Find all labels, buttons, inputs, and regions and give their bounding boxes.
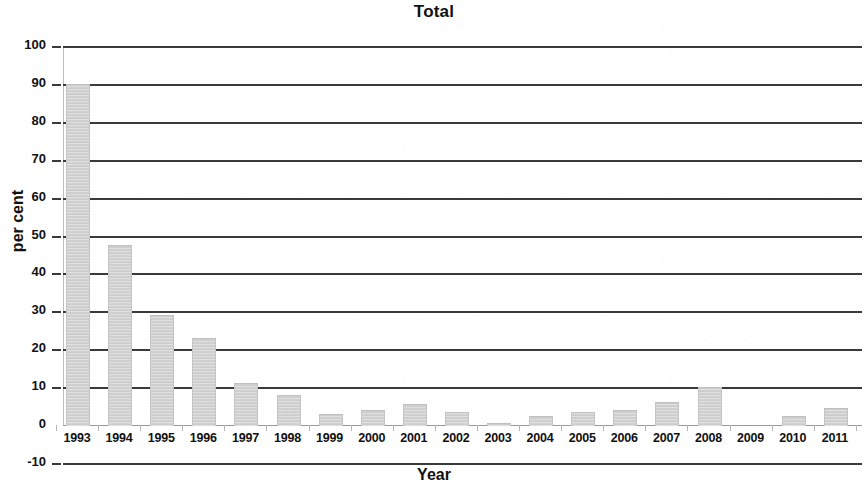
x-tick-mark <box>56 425 57 431</box>
x-tick-label-2000: 2000 <box>349 431 395 445</box>
bar-1997 <box>234 383 258 426</box>
bar-1993 <box>66 84 90 426</box>
y-tick-label: 100 <box>6 37 46 52</box>
y-tick-label: 20 <box>6 340 46 355</box>
bar-2008 <box>698 387 722 426</box>
y-tick-label: 0 <box>6 416 46 431</box>
bar-2001 <box>403 404 427 426</box>
y-axis-title: per cent <box>9 161 27 281</box>
gridline <box>63 160 862 162</box>
y-tick-label: 30 <box>6 302 46 317</box>
y-tick-mark <box>52 46 61 48</box>
x-tick-label-2005: 2005 <box>559 431 605 445</box>
y-tick-mark <box>52 387 61 389</box>
bar-2002 <box>445 412 469 426</box>
y-tick-mark <box>52 122 61 124</box>
x-tick-label-2006: 2006 <box>601 431 647 445</box>
gridline <box>63 84 862 86</box>
y-tick-label: 10 <box>6 378 46 393</box>
x-tick-label-2007: 2007 <box>643 431 689 445</box>
x-tick-label-2003: 2003 <box>475 431 521 445</box>
x-tick-label-2008: 2008 <box>686 431 732 445</box>
x-tick-label-1999: 1999 <box>307 431 353 445</box>
x-tick-label-1994: 1994 <box>96 431 142 445</box>
bar-2006 <box>613 410 637 426</box>
bar-2007 <box>655 402 679 426</box>
x-tick-label-1995: 1995 <box>138 431 184 445</box>
bar-2005 <box>571 412 595 426</box>
bar-2003 <box>487 423 511 426</box>
bar-2011 <box>824 408 848 426</box>
y-tick-mark <box>52 311 61 313</box>
bar-1998 <box>277 395 301 426</box>
gridline <box>63 236 862 238</box>
y-tick-mark <box>52 236 61 238</box>
x-tick-label-1997: 1997 <box>222 431 268 445</box>
y-tick-label: 70 <box>6 151 46 166</box>
y-tick-label: 50 <box>6 227 46 242</box>
gridline <box>63 349 862 351</box>
x-tick-label-1996: 1996 <box>180 431 226 445</box>
gridline <box>63 387 862 389</box>
x-tick-label-2004: 2004 <box>517 431 563 445</box>
bar-chart: Total per cent 1009080706050403020100-10… <box>0 0 868 492</box>
y-tick-label: 60 <box>6 189 46 204</box>
y-tick-mark <box>52 198 61 200</box>
gridline <box>63 122 862 124</box>
y-tick-mark <box>52 273 61 275</box>
bar-1996 <box>192 338 216 426</box>
x-tick-label-2001: 2001 <box>391 431 437 445</box>
gridline <box>63 273 862 275</box>
x-tick-label-2009: 2009 <box>728 431 774 445</box>
y-tick-mark <box>52 463 61 465</box>
gridline <box>63 198 862 200</box>
gridline <box>63 46 862 48</box>
x-tick-label-2010: 2010 <box>770 431 816 445</box>
x-tick-label-2011: 2011 <box>812 431 858 445</box>
gridline <box>63 463 862 465</box>
y-tick-label: 90 <box>6 75 46 90</box>
x-tick-label-2002: 2002 <box>433 431 479 445</box>
x-axis-title: Year <box>0 466 868 484</box>
bar-2000 <box>361 410 385 426</box>
y-tick-mark <box>52 349 61 351</box>
chart-title: Total <box>0 2 868 22</box>
bar-1995 <box>150 315 174 426</box>
bar-2010 <box>782 416 806 426</box>
y-tick-label: 40 <box>6 264 46 279</box>
x-tick-label-1998: 1998 <box>265 431 311 445</box>
bar-2004 <box>529 416 553 426</box>
bar-1994 <box>108 245 132 426</box>
bar-1999 <box>319 414 343 426</box>
x-tick-label-1993: 1993 <box>54 431 100 445</box>
y-tick-label: 80 <box>6 113 46 128</box>
gridline <box>63 311 862 313</box>
y-tick-mark <box>52 160 61 162</box>
y-tick-mark <box>52 84 61 86</box>
plot-area: 1009080706050403020100-10 19931994199519… <box>63 46 862 463</box>
